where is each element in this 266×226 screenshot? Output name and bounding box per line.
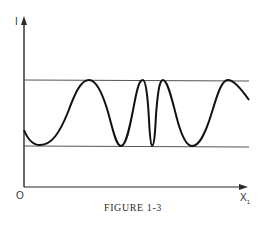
y-axis-arrow-icon — [21, 16, 27, 25]
figure-plot — [0, 0, 266, 226]
upper-bound-line — [24, 80, 249, 81]
lower-bound-line — [24, 146, 249, 147]
x-axis-arrow-icon — [239, 184, 248, 190]
figure-caption: FIGURE 1-3 — [0, 202, 266, 213]
origin-label: O — [16, 191, 24, 201]
y-axis-label: I — [15, 17, 18, 27]
intensity-curve — [24, 80, 249, 146]
